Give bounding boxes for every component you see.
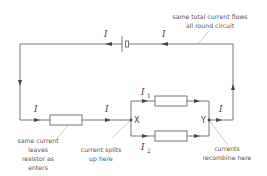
arrow-left-icon xyxy=(105,42,112,46)
arrow-right-icon xyxy=(142,99,148,103)
current-label: I xyxy=(140,142,145,152)
arrow-down-icon xyxy=(18,80,22,86)
annotation-join-line2: recombine here xyxy=(203,154,252,161)
circuit-diagram: I I I I I 1 I 2 I X Y same total current… xyxy=(0,0,267,176)
annotation-split-line1: current splits xyxy=(81,146,122,154)
arrow-up-icon xyxy=(231,84,235,90)
arrow-left-icon xyxy=(161,42,168,46)
annotation-resistor-line1: same current xyxy=(17,137,59,144)
arrow-right-icon xyxy=(194,134,200,138)
arrow-right-icon xyxy=(194,99,200,103)
current-label: I xyxy=(218,104,223,114)
annotation-top-line1: same total current flows xyxy=(172,13,247,20)
junction-dot xyxy=(208,119,211,122)
annotation-top-line2: all round circuit xyxy=(186,22,235,29)
current-label: I xyxy=(33,104,38,114)
annotation-join-line1: currents xyxy=(214,145,240,152)
current-subscript: 1 xyxy=(147,92,151,99)
current-label: I xyxy=(104,104,109,114)
node-y-label: Y xyxy=(200,116,206,125)
series-resistor xyxy=(50,115,82,125)
current-label: I xyxy=(140,87,145,97)
current-label: I xyxy=(103,29,108,39)
node-x-label: X xyxy=(134,116,140,125)
current-subscript: 2 xyxy=(147,147,151,154)
annotation-resistor-line4: enters xyxy=(28,164,48,171)
arrow-right-icon xyxy=(34,118,40,122)
junction-dot xyxy=(130,119,133,122)
parallel-resistor-bottom xyxy=(155,131,187,141)
arrow-right-icon xyxy=(142,134,148,138)
arrow-right-icon xyxy=(216,118,222,122)
current-label: I xyxy=(161,29,166,39)
parallel-resistor-top xyxy=(155,96,187,106)
battery-short-plate xyxy=(126,41,129,47)
annotation-split-line2: up here xyxy=(89,155,113,163)
annotation-resistor-line3: resistor as xyxy=(22,155,54,162)
annotation-resistor-line2: leaves xyxy=(28,146,48,153)
arrow-right-icon xyxy=(105,118,111,122)
